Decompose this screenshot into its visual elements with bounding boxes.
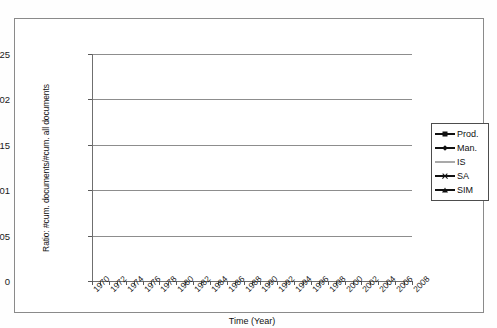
legend-item-label: Prod. xyxy=(457,129,479,139)
legend-marker-diamond-icon xyxy=(435,142,455,154)
legend-item-label: SA xyxy=(457,171,469,181)
y-tick-mark xyxy=(88,236,92,237)
legend-item-is[interactable]: IS xyxy=(435,155,486,169)
gridline xyxy=(92,145,412,146)
legend-item-label: SIM xyxy=(457,185,473,195)
chart-frame: Ratio: #cum. documents/#cum. all documen… xyxy=(14,18,484,313)
plot-background xyxy=(92,54,412,281)
legend-item-label: IS xyxy=(457,157,466,167)
y-tick-label: 0,005 xyxy=(0,230,10,241)
gridline xyxy=(92,54,412,55)
legend-item-prod[interactable]: Prod. xyxy=(435,127,486,141)
y-axis-title-text: Ratio: #cum. documents/#cum. all documen… xyxy=(41,84,51,252)
y-tick-mark xyxy=(88,190,92,191)
y-tick-mark xyxy=(88,54,92,55)
y-tick-mark xyxy=(88,145,92,146)
legend-item-man[interactable]: Man. xyxy=(435,141,486,155)
legend-marker-triangle-icon xyxy=(435,184,455,196)
chart-legend: Prod.Man.ISSASIM xyxy=(431,123,489,201)
y-tick-label: 0,015 xyxy=(0,139,10,150)
gridline xyxy=(92,99,412,100)
chart-image: Ratio: #cum. documents/#cum. all documen… xyxy=(0,0,497,328)
gridline xyxy=(92,236,412,237)
y-tick-label: 0,025 xyxy=(0,49,10,60)
legend-item-sim[interactable]: SIM xyxy=(435,183,486,197)
legend-item-sa[interactable]: SA xyxy=(435,169,486,183)
y-tick-label: 0,01 xyxy=(0,185,10,196)
gridline xyxy=(92,190,412,191)
x-tick-label: 2008 xyxy=(411,274,431,294)
x-axis-title: Time (Year) xyxy=(92,316,412,326)
legend-marker-dash-icon xyxy=(435,156,455,168)
y-axis-title: Ratio: #cum. documents/#cum. all documen… xyxy=(39,54,53,281)
y-tick-label: 0,02 xyxy=(0,94,10,105)
plot-area: 00,0050,010,0150,020,025 197019721974197… xyxy=(92,54,412,281)
legend-item-label: Man. xyxy=(457,143,477,153)
y-tick-label: 0 xyxy=(5,276,10,287)
y-tick-mark xyxy=(88,99,92,100)
y-axis-line xyxy=(92,54,93,281)
legend-marker-x-icon xyxy=(435,170,455,182)
legend-marker-square-icon xyxy=(435,128,455,140)
